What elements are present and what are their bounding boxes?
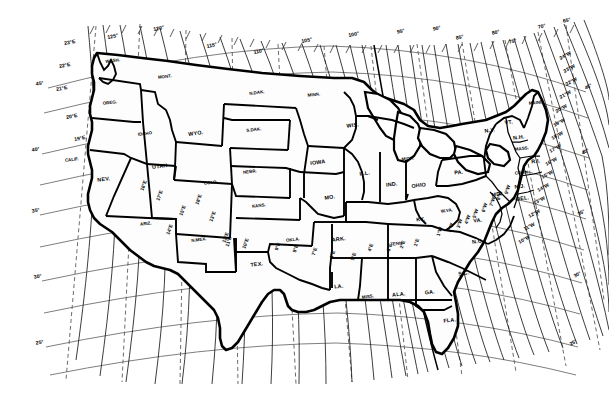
left-label-20e-3: 20°E — [66, 112, 79, 120]
right-label-14w-10: 14°W — [536, 182, 550, 193]
state-label-la: LA. — [334, 282, 344, 289]
longitude-label-110-3: 110° — [253, 47, 264, 55]
left-label-30-8: 30° — [33, 272, 42, 279]
longitude-label-80-9: 80° — [491, 28, 500, 36]
left-label-21e-2: 21°E — [56, 84, 69, 92]
left-label-25-9: 25° — [35, 338, 44, 345]
state-label-ga: GA. — [424, 288, 435, 295]
right-label-18w-6: 18°W — [550, 130, 564, 141]
right-label-10w-14: 10°W — [517, 234, 531, 245]
right-label-13w-11: 13°W — [532, 195, 546, 206]
right-label-23w-1: 23°W — [562, 63, 576, 74]
longitude-label-120-1: 120° — [153, 24, 165, 32]
longitude-label-85-8: 85° — [455, 33, 464, 41]
longitude-label-100-5: 100° — [348, 30, 360, 38]
state-label-pa: PA. — [454, 168, 464, 175]
state-label-va: VA. — [473, 216, 483, 223]
left-label-22e-1: 22°E — [59, 61, 72, 69]
state-label-vt: VT. — [504, 118, 513, 125]
longitude-label-125-0: 125° — [107, 32, 119, 40]
left-edge-labels: 23°E22°E21°E20°E19°E45°40°35°30°25° — [31, 38, 86, 346]
state-label-ky: KY. — [416, 215, 426, 222]
right-label-24w-0: 24°W — [558, 50, 572, 61]
right-label-45-15: 45° — [583, 82, 592, 91]
longitude-label-65-12: 65° — [562, 16, 571, 24]
longitude-label-90-7: 90° — [432, 24, 441, 32]
left-label-23e-0: 23°E — [64, 38, 77, 46]
top-edge-labels: 125°120°115°110°105°100°95°90°85°80°75°7… — [107, 16, 571, 55]
right-label-19w-5: 19°W — [552, 117, 566, 128]
state-label-del: DEL. — [516, 194, 530, 202]
state-label-calif: CALIF. — [65, 156, 79, 163]
longitude-label-115-2: 115° — [206, 41, 217, 49]
isogonic-map: 23°E22°E21°E20°E19°E45°40°35°30°25° 125°… — [0, 0, 609, 414]
longitude-label-70-11: 70° — [537, 22, 546, 30]
right-label-21w-3: 21°W — [558, 89, 572, 100]
state-label-sc: S.C. — [458, 269, 470, 276]
right-label-25-19: 25° — [568, 338, 577, 347]
state-label-nj: N.J. — [514, 182, 526, 189]
left-label-35-7: 35° — [31, 206, 40, 213]
map-svg: 23°E22°E21°E20°E19°E45°40°35°30°25° 125°… — [0, 0, 609, 414]
longitude-label-105-4: 105° — [301, 36, 313, 44]
left-label-40-6: 40° — [31, 145, 40, 152]
right-label-30-18: 30° — [572, 270, 581, 279]
left-label-19e-4: 19°E — [74, 134, 87, 142]
right-label-12w-12: 12°W — [527, 208, 541, 219]
longitude-label-95-6: 95° — [396, 27, 405, 35]
left-label-45-5: 45° — [35, 79, 44, 86]
state-label-ri: R.I. — [531, 157, 541, 164]
